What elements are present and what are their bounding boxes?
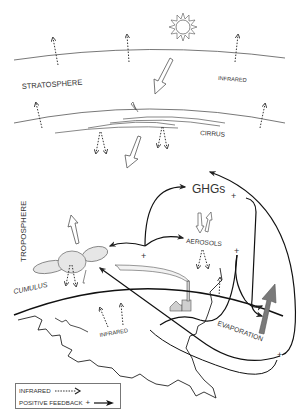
legend-feedback-label: POSITIVE FEEDBACK — [19, 397, 83, 409]
legend-infrared-row: INFRARED — [19, 385, 117, 397]
cumulus-small-arrow — [83, 270, 86, 283]
infrared-upper-label: INFRARED — [218, 75, 247, 83]
infrared-arrows-cirrus — [96, 127, 167, 153]
coastline-inlet — [55, 318, 88, 332]
troposphere-label: TROPOSPHERE — [19, 201, 28, 262]
infrared-lower-label: INFRARED — [99, 327, 128, 338]
legend-infrared-label: INFRARED — [19, 385, 51, 397]
factory-icon — [170, 281, 191, 311]
reflect-arrow-small — [131, 102, 138, 112]
evaporation-sign: + — [277, 350, 282, 360]
infrared-arrows-aerosols — [198, 250, 208, 268]
solar-arrow-2 — [125, 136, 141, 168]
evaporation-label: EVAPORATION — [217, 319, 265, 342]
legend: INFRARED POSITIVE FEEDBACK + — [15, 383, 121, 409]
cloud-icon — [32, 244, 109, 276]
ghgs-sign: + — [231, 191, 236, 201]
tropopause-upper-line — [14, 49, 285, 60]
solar-arrow-1 — [154, 58, 173, 94]
cumulus-label: CUMULUS — [13, 281, 49, 295]
stratosphere-label: STRATOSPHERE — [22, 78, 83, 91]
legend-feedback-sign: + — [86, 397, 91, 409]
cumulus-reflect-arrow — [68, 215, 79, 244]
stratosphere-lower-line — [14, 109, 285, 123]
climate-diagram: STRATOSPHERE INFRARED CIRRUS TROPOSPHERE… — [0, 0, 308, 420]
smoke-plume — [115, 265, 189, 281]
center-sign: + — [141, 251, 146, 261]
solid-arrow-icon — [93, 399, 115, 407]
legend-feedback-row: POSITIVE FEEDBACK + — [19, 397, 117, 409]
dotted-arrow-icon — [54, 387, 82, 395]
aerosols-sign: + — [234, 246, 239, 256]
sun-icon — [169, 13, 197, 41]
ghgs-label: GHGs — [192, 182, 225, 196]
infrared-arrows-lower — [100, 278, 220, 327]
cirrus-label: CIRRUS — [200, 129, 226, 138]
ghg-hollow-arrows — [196, 212, 212, 233]
aerosols-label: AEROSOLS — [186, 237, 223, 247]
evaporation-arrow — [259, 284, 276, 334]
